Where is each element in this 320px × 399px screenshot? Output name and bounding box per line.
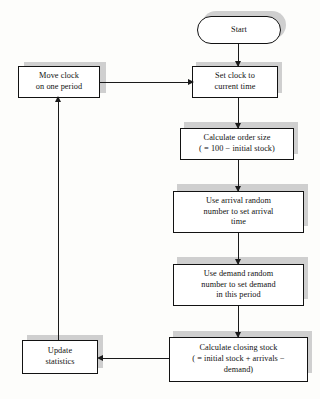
node-calculate-closing-stock[interactable]: Calculate closing stock ( = initial stoc… bbox=[169, 337, 308, 382]
node-demand-random-label: Use demand random number to set demand i… bbox=[198, 269, 279, 302]
edge-arrival-to-demand-arrowhead bbox=[235, 259, 241, 265]
node-move-clock-label: Move clock on one period bbox=[33, 71, 85, 93]
node-update-statistics-label: Update statistics bbox=[42, 346, 77, 368]
edge-update-stats-to-move-clock-arrowhead bbox=[55, 96, 61, 102]
node-update-statistics[interactable]: Update statistics bbox=[22, 340, 98, 374]
edge-set-clock-to-order-size-arrowhead bbox=[235, 123, 241, 129]
edge-move-clock-to-set-clock-arrowhead bbox=[188, 79, 194, 85]
node-demand-random[interactable]: Use demand random number to set demand i… bbox=[173, 264, 304, 306]
edge-demand-to-closing-stock-arrowhead bbox=[235, 332, 241, 338]
node-arrival-random[interactable]: Use arrival random number to set arrival… bbox=[173, 191, 304, 233]
edge-start-to-set-clock-arrowhead bbox=[235, 61, 241, 67]
edge-update-stats-to-move-clock-line bbox=[58, 100, 59, 340]
node-set-clock[interactable]: Set clock to current time bbox=[192, 66, 278, 98]
edge-closing-stock-to-update-stats-arrowhead bbox=[97, 355, 103, 361]
node-move-clock[interactable]: Move clock on one period bbox=[18, 66, 100, 98]
edge-order-size-to-arrival-arrowhead bbox=[235, 186, 241, 192]
node-start[interactable]: Start bbox=[197, 16, 281, 44]
node-arrival-random-label: Use arrival random number to set arrival… bbox=[201, 196, 277, 229]
node-calculate-closing-stock-label: Calculate closing stock ( = initial stoc… bbox=[189, 343, 288, 376]
node-set-clock-label: Set clock to current time bbox=[212, 71, 259, 93]
edge-move-clock-to-set-clock-line bbox=[98, 82, 192, 83]
flowchart-canvas: Start Move clock on one period Set clock… bbox=[0, 0, 320, 399]
node-start-label: Start bbox=[228, 25, 250, 36]
node-calculate-order-size-label: Calculate order size ( = 100 − initial s… bbox=[196, 133, 278, 155]
node-calculate-order-size[interactable]: Calculate order size ( = 100 − initial s… bbox=[180, 128, 294, 160]
